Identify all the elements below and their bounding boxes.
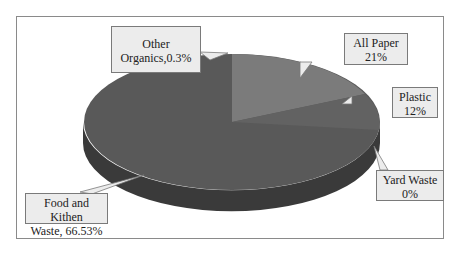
label-line: 0%	[381, 187, 439, 201]
label-line: Waste, 66.53%	[30, 224, 103, 238]
label-other-organics: Other Organics,0.3%	[111, 26, 201, 73]
label-yard-waste: Yard Waste 0%	[376, 170, 444, 201]
label-plastic: Plastic 12%	[392, 87, 438, 118]
label-line: Organics,0.3%	[116, 51, 196, 65]
label-all-paper: All Paper 21%	[344, 33, 408, 65]
label-line: All Paper	[349, 36, 403, 50]
label-line: Plastic	[397, 90, 433, 104]
label-line: Yard Waste	[381, 173, 439, 187]
label-line: Other	[116, 37, 196, 51]
label-food-kitchen-waste: Food and Kithen Waste, 66.53%	[25, 193, 108, 224]
label-line: Food and Kithen	[30, 196, 103, 224]
label-line: 12%	[397, 104, 433, 118]
label-line: 21%	[349, 50, 403, 64]
